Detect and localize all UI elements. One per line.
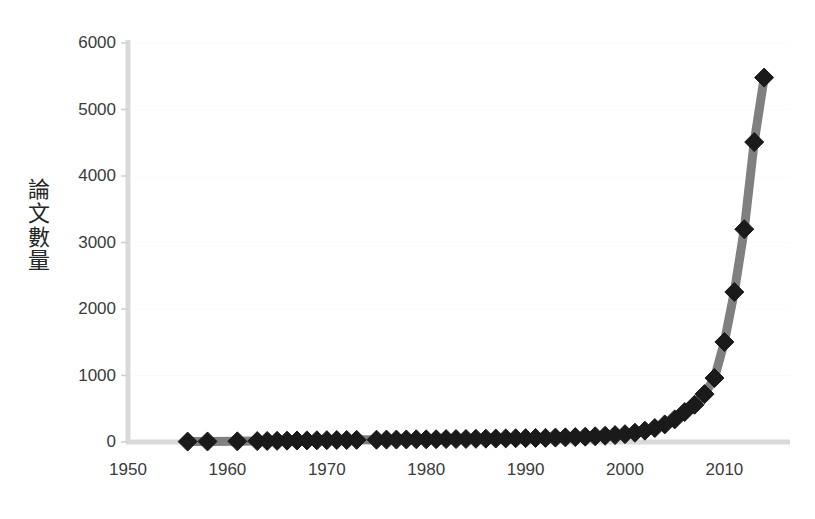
x-tick-label: 1980 <box>407 460 445 480</box>
data-point-marker <box>725 282 744 301</box>
x-tick-label: 1970 <box>308 460 346 480</box>
x-tick-label: 2000 <box>606 460 644 480</box>
data-point-marker <box>198 432 217 451</box>
data-point-marker <box>755 68 774 87</box>
series-line-path <box>188 78 765 442</box>
y-tick-label: 2000 <box>30 299 116 319</box>
data-point-marker <box>745 133 764 152</box>
series-line <box>188 78 765 442</box>
y-tick-label: 0 <box>30 432 116 452</box>
x-tick-label: 1990 <box>507 460 545 480</box>
x-tick-label: 1950 <box>109 460 147 480</box>
data-point-marker <box>735 220 754 239</box>
y-tick-label: 1000 <box>30 366 116 386</box>
x-tick-label: 2010 <box>705 460 743 480</box>
data-point-marker <box>715 332 734 351</box>
y-tick-label: 3000 <box>30 233 116 253</box>
y-tick-label: 4000 <box>30 166 116 186</box>
series-markers <box>178 68 774 451</box>
data-point-marker <box>178 432 197 451</box>
plot-canvas <box>0 0 815 519</box>
y-tick-label: 5000 <box>30 100 116 120</box>
y-tick-label: 6000 <box>30 33 116 53</box>
axis-lines <box>126 40 790 442</box>
data-point-marker <box>228 432 247 451</box>
tick-marks <box>121 43 790 442</box>
x-tick-label: 1960 <box>208 460 246 480</box>
chart-figure: 論 文 數 量 0100020003000400050006000 195019… <box>0 0 815 519</box>
